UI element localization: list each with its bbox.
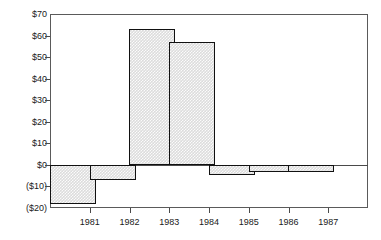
x-axis-tick-label: 1983 (149, 217, 189, 227)
x-axis-labels: 1981198219831984198519861987 (0, 0, 381, 240)
x-axis-tick-label: 1986 (269, 217, 309, 227)
x-axis-tick-label: 1984 (189, 217, 229, 227)
x-axis-tick-label: 1987 (308, 217, 348, 227)
x-axis-tick-label: 1981 (70, 217, 110, 227)
x-axis-tick-label: 1982 (110, 217, 150, 227)
bar-chart: $70$60$50$40$30$20$10$0($10)($20) 198119… (0, 0, 381, 240)
x-axis-tick-label: 1985 (229, 217, 269, 227)
